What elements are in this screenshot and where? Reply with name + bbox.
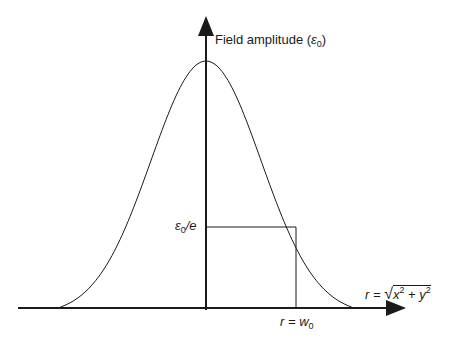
w-text: w: [299, 314, 308, 329]
exponent: 2: [426, 285, 431, 295]
plus: +: [404, 287, 419, 302]
level-label-rest: /e: [186, 218, 197, 233]
y-axis-label: Field amplitude (ε0): [215, 32, 326, 49]
sqrt-icon: √: [384, 285, 393, 302]
r-text: r =: [365, 287, 384, 302]
y-axis-label-text: Field amplitude (: [215, 32, 311, 47]
x-axis-label: r = √x2 + y2: [365, 285, 431, 303]
paren: ): [322, 32, 326, 47]
level-label: ε0/e: [175, 218, 197, 235]
subscript: 0: [309, 321, 314, 331]
r-text: r =: [280, 314, 299, 329]
waist-label: r = w0: [280, 314, 314, 331]
radicand: x2 + y2: [393, 285, 431, 302]
